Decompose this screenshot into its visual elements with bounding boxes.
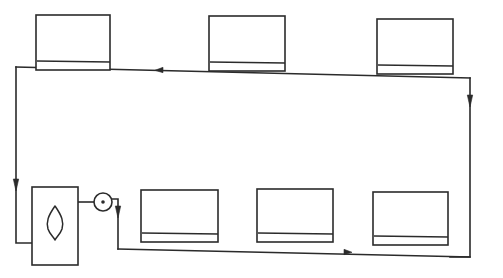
arrow-right-riser-down bbox=[467, 95, 472, 107]
right-riser-pipe bbox=[450, 78, 470, 257]
boiler bbox=[32, 187, 78, 265]
radiator-top-3 bbox=[377, 19, 453, 74]
diagram-canvas bbox=[0, 0, 503, 278]
arrow-pump-outlet-down bbox=[115, 206, 120, 218]
radiator-bottom-2 bbox=[257, 189, 333, 242]
pump bbox=[94, 193, 112, 211]
radiator-top-1 bbox=[36, 15, 110, 70]
radiator-bottom-3 bbox=[373, 192, 448, 245]
radiator-top-2 bbox=[209, 16, 285, 71]
left-riser-pipe bbox=[16, 67, 32, 243]
arrow-top-left-flow bbox=[155, 67, 163, 72]
arrow-left-riser-down bbox=[13, 179, 18, 191]
bottom-flow-header-pipe bbox=[118, 249, 470, 257]
heating-system-diagram: Central heating circuit schematic bbox=[0, 0, 503, 278]
radiator-bottom-1 bbox=[141, 190, 218, 242]
